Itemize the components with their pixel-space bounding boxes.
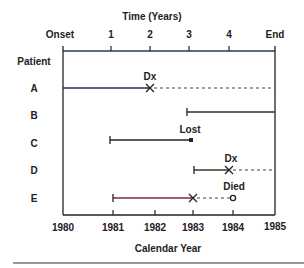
patient-b-timeline <box>187 108 275 116</box>
patient-label-c: C <box>30 138 37 149</box>
chart-title: Time (Years) <box>122 11 181 22</box>
bottom-tick-1984: 1984 <box>222 222 245 233</box>
top-tick-3: 3 <box>186 29 192 40</box>
bottom-tick-1985: 1985 <box>264 221 287 232</box>
patient-label-d: D <box>30 165 37 176</box>
bottom-tick-1981: 1981 <box>102 222 125 233</box>
patient-label-a: A <box>30 83 37 94</box>
patient-d-timeline: Dx <box>194 153 275 174</box>
top-tick-onset: Onset <box>46 29 75 40</box>
top-tick-4: 4 <box>226 29 232 40</box>
bottom-tick-1980: 1980 <box>52 222 75 233</box>
patient-timeline-diagram: Time (Years) Onset 1 2 3 4 End Patient A… <box>0 0 304 268</box>
top-tick-end: End <box>266 29 285 40</box>
patient-c-timeline: Lost <box>110 124 201 144</box>
bottom-tick-1983: 1983 <box>182 222 205 233</box>
y-axis-label: Patient <box>17 56 51 67</box>
bottom-tick-1982: 1982 <box>144 222 167 233</box>
top-tick-2: 2 <box>147 29 153 40</box>
patient-e-timeline: Died <box>113 181 245 202</box>
died-circle-icon <box>230 195 235 200</box>
patient-label-b: B <box>30 110 37 121</box>
patient-label-e: E <box>31 193 38 204</box>
x-axis-label: Calendar Year <box>135 243 202 254</box>
patient-a-timeline: Dx <box>63 71 275 92</box>
event-label-a-dx: Dx <box>144 71 157 82</box>
event-label-c-lost: Lost <box>179 124 201 135</box>
event-label-d-dx: Dx <box>225 153 238 164</box>
top-tick-1: 1 <box>108 29 114 40</box>
lost-marker-icon <box>189 138 193 142</box>
event-label-e-died: Died <box>223 181 245 192</box>
